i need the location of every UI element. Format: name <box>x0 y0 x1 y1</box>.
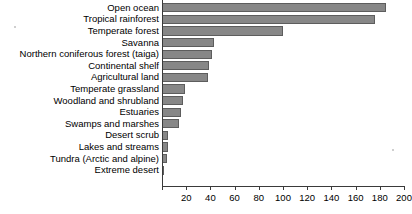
bar-temperate-grassland <box>162 84 185 93</box>
x-axis-tick-label: 60 <box>229 192 240 203</box>
bar-row: Lakes and streams <box>0 141 409 153</box>
x-axis-tick <box>283 186 284 190</box>
bar-row: Continental shelf <box>0 60 409 72</box>
bar-category-label: Northern coniferous forest (taiga) <box>0 49 162 59</box>
bar-track <box>162 50 404 59</box>
bar-track <box>162 166 404 175</box>
bar-track <box>162 61 404 70</box>
bar-tropical-rainforest <box>162 15 375 24</box>
x-axis-tick-label: 200 <box>396 192 412 203</box>
bar-agricultural-land <box>162 73 208 82</box>
y-axis-line <box>162 0 163 186</box>
x-axis-tick <box>162 186 163 190</box>
x-axis-tick-label: 80 <box>254 192 265 203</box>
bar-track <box>162 96 404 105</box>
bar-row: Swamps and marshes <box>0 118 409 130</box>
bar-category-label: Estuaries <box>0 107 162 117</box>
x-axis-tick-label: 20 <box>181 192 192 203</box>
x-axis-tick <box>307 186 308 190</box>
bar-row: Extreme desert <box>0 164 409 176</box>
x-axis-tick-label: 140 <box>323 192 339 203</box>
bar-track <box>162 84 404 93</box>
x-axis-tick <box>331 186 332 190</box>
bar-row: Agricultural land <box>0 72 409 84</box>
bar-category-label: Agricultural land <box>0 72 162 82</box>
bar-category-label: Temperate grassland <box>0 84 162 94</box>
bar-category-label: Temperate forest <box>0 26 162 36</box>
x-axis-tick-label: 180 <box>372 192 388 203</box>
x-axis-tick-label: 160 <box>348 192 364 203</box>
bar-category-label: Continental shelf <box>0 61 162 71</box>
bar-category-label: Lakes and streams <box>0 142 162 152</box>
bar-track <box>162 119 404 128</box>
bar-swamps-and-marshes <box>162 119 179 128</box>
bar-track <box>162 142 404 151</box>
bar-row: Desert scrub <box>0 130 409 142</box>
bar-temperate-forest <box>162 26 283 35</box>
bar-estuaries <box>162 108 181 117</box>
x-axis-tick <box>186 186 187 190</box>
bar-track <box>162 38 404 47</box>
bar-track <box>162 15 404 24</box>
bar-track <box>162 108 404 117</box>
bar-row: Temperate forest <box>0 25 409 37</box>
bar-northern-coniferous-forest-taiga <box>162 50 212 59</box>
x-axis-tick <box>404 186 405 190</box>
x-axis-tick <box>210 186 211 190</box>
bar-row: Tropical rainforest <box>0 14 409 26</box>
bar-category-label: Extreme desert <box>0 165 162 175</box>
bar-open-ocean <box>162 3 386 12</box>
bar-row: Temperate grassland <box>0 83 409 95</box>
bar-row: Open ocean <box>0 2 409 14</box>
bar-row: Savanna <box>0 37 409 49</box>
x-axis-tick-label: 40 <box>205 192 216 203</box>
x-axis-tick-label: 100 <box>275 192 291 203</box>
bar-category-label: Savanna <box>0 38 162 48</box>
x-axis-tick <box>259 186 260 190</box>
bar-track <box>162 73 404 82</box>
bar-continental-shelf <box>162 61 209 70</box>
bar-row: Woodland and shrubland <box>0 95 409 107</box>
bar-track <box>162 154 404 163</box>
bar-category-label: Woodland and shrubland <box>0 96 162 106</box>
bar-category-label: Open ocean <box>0 3 162 13</box>
x-axis-tick <box>356 186 357 190</box>
x-axis-tick-label: 120 <box>299 192 315 203</box>
bar-category-label: Swamps and marshes <box>0 119 162 129</box>
bar-track <box>162 131 404 140</box>
x-axis-tick <box>235 186 236 190</box>
bar-category-label: Desert scrub <box>0 130 162 140</box>
bar-category-label: Tropical rainforest <box>0 14 162 24</box>
bar-rows: Open oceanTropical rainforestTemperate f… <box>0 2 409 176</box>
x-axis-tick <box>380 186 381 190</box>
bar-row: Northern coniferous forest (taiga) <box>0 48 409 60</box>
bar-savanna <box>162 38 214 47</box>
bar-row: Tundra (Arctic and alpine) <box>0 153 409 165</box>
bar-category-label: Tundra (Arctic and alpine) <box>0 154 162 164</box>
bar-woodland-and-shrubland <box>162 96 183 105</box>
bar-row: Estuaries <box>0 106 409 118</box>
bar-track <box>162 3 404 12</box>
bar-track <box>162 26 404 35</box>
